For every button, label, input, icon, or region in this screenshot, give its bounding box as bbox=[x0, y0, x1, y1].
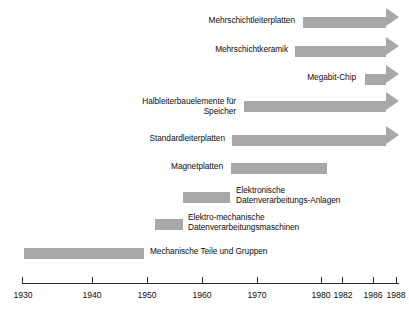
bar-segment bbox=[183, 192, 230, 203]
bar-label: Magnetplatten bbox=[80, 161, 223, 171]
axis-tick bbox=[396, 277, 397, 283]
chart-row: Magnetplatten bbox=[0, 158, 409, 180]
bar-segment bbox=[365, 74, 386, 85]
bar-segment bbox=[232, 135, 386, 146]
axis-tick-label: 1940 bbox=[82, 290, 101, 300]
axis-tick bbox=[342, 277, 343, 283]
axis-tick-label: 1982 bbox=[333, 290, 352, 300]
bar-label: Elektro-mechanische Datenverarbeitungsma… bbox=[188, 212, 388, 232]
x-axis-line bbox=[22, 283, 399, 284]
bar-segment bbox=[231, 163, 327, 174]
chart-row: Standardleiterplatten bbox=[0, 130, 409, 152]
bar-segment bbox=[24, 248, 144, 259]
chart-row: Elektronische Datenverarbeitungs-Anlagen bbox=[0, 185, 409, 211]
bar-label: Mechanische Teile und Gruppen bbox=[150, 246, 350, 256]
axis-tick bbox=[92, 277, 93, 283]
axis-tick-label: 1930 bbox=[13, 290, 32, 300]
arrow-head-icon bbox=[386, 92, 399, 110]
bar-label: Standardleiterplatten bbox=[60, 133, 225, 143]
axis-tick-label: 1960 bbox=[192, 290, 211, 300]
axis-tick bbox=[373, 277, 374, 283]
axis-tick-label: 1988 bbox=[386, 290, 405, 300]
chart-row: Halbleiterbauelemente für Speicher bbox=[0, 96, 409, 124]
axis-tick-label: 1980 bbox=[311, 290, 330, 300]
chart-row: Mechanische Teile und Gruppen bbox=[0, 243, 409, 265]
arrow-head-icon bbox=[386, 126, 399, 144]
axis-tick bbox=[257, 277, 258, 283]
axis-tick-label: 1986 bbox=[363, 290, 382, 300]
axis-tick bbox=[22, 277, 23, 283]
chart-row: Elektro-mechanische Datenverarbeitungsma… bbox=[0, 212, 409, 238]
bar-segment bbox=[155, 219, 183, 230]
bar-label: Elektronische Datenverarbeitungs-Anlagen bbox=[236, 185, 408, 205]
bar-segment bbox=[303, 17, 386, 28]
axis-tick-label: 1970 bbox=[247, 290, 266, 300]
bar-label: Mehrschichtleiterplatten bbox=[120, 15, 295, 25]
axis-tick bbox=[321, 277, 322, 283]
chart-row: Mehrschichtkeramik bbox=[0, 41, 409, 63]
timeline-chart: Mehrschichtleiterplatten Mehrschichtkera… bbox=[0, 0, 409, 315]
axis-tick bbox=[202, 277, 203, 283]
chart-row: Mehrschichtleiterplatten bbox=[0, 12, 409, 34]
bar-label: Mehrschichtkeramik bbox=[120, 44, 288, 54]
axis-tick-label: 1950 bbox=[137, 290, 156, 300]
axis-tick bbox=[147, 277, 148, 283]
bar-segment bbox=[295, 46, 386, 57]
bar-label: Halbleiterbauelemente für Speicher bbox=[40, 96, 236, 116]
chart-row: Megabit-Chip bbox=[0, 69, 409, 91]
arrow-head-icon bbox=[386, 8, 399, 26]
bar-segment bbox=[244, 101, 386, 112]
arrow-head-icon bbox=[386, 37, 399, 55]
arrow-head-icon bbox=[386, 65, 399, 83]
bar-label: Megabit-Chip bbox=[160, 72, 356, 82]
